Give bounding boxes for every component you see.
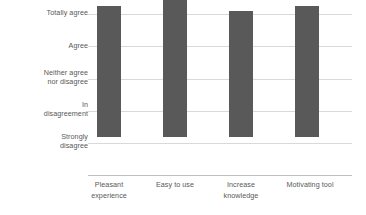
bar-easy-to-use: [163, 0, 187, 137]
x-tick-line: Motivating tool: [274, 180, 346, 191]
bar-motivating-tool: [295, 6, 319, 137]
x-tick-motivating-tool: Motivating tool: [274, 180, 346, 191]
y-tick-totally-agree: Totally agree: [4, 8, 88, 17]
y-tick-strongly-disagree: Strongly disagree: [4, 132, 88, 150]
y-tick-in-disagreement: In disagreement: [4, 100, 88, 118]
x-axis-labels: Pleasant experience Easy to use Increase…: [88, 180, 352, 214]
x-tick-line: Easy to use: [142, 180, 208, 191]
bars-layer: [88, 0, 352, 176]
y-tick-line: disagree: [4, 141, 88, 150]
y-tick-line: disagreement: [4, 109, 88, 118]
y-tick-line: In: [4, 100, 88, 109]
x-tick-line: experience: [76, 191, 142, 202]
bar-pleasant-experience: [97, 6, 121, 137]
bar-chart: Totally agree Agree Neither agree nor di…: [0, 0, 366, 215]
x-tick-easy-to-use: Easy to use: [142, 180, 208, 191]
y-tick-line: Agree: [4, 41, 88, 50]
x-tick-pleasant-experience: Pleasant experience: [76, 180, 142, 201]
x-tick-increase-knowledge: Increase knowledge: [208, 180, 274, 201]
y-tick-line: Neither agree: [4, 68, 88, 77]
y-tick-neither-agree-nor-disagree: Neither agree nor disagree: [4, 68, 88, 86]
x-tick-line: knowledge: [208, 191, 274, 202]
x-tick-line: Increase: [208, 180, 274, 191]
y-tick-line: Strongly: [4, 132, 88, 141]
x-tick-line: Pleasant: [76, 180, 142, 191]
bar-increase-knowledge: [229, 11, 253, 137]
y-tick-agree: Agree: [4, 41, 88, 50]
y-tick-line: nor disagree: [4, 77, 88, 86]
y-tick-line: Totally agree: [4, 8, 88, 17]
